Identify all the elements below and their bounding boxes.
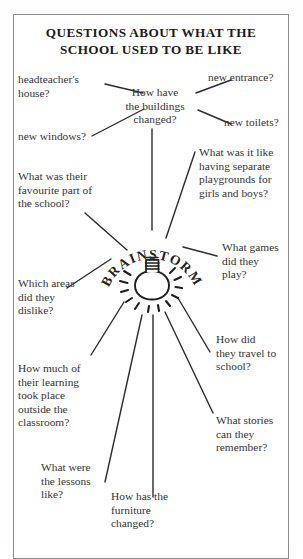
branch-label-what-stories[interactable]: What stories can they remember? [216, 414, 292, 455]
brainstorm-word: BRAINSTORM [98, 247, 206, 289]
branch-label-buildings-changed[interactable]: How have the buildings changed? [115, 86, 195, 127]
branch-label-separate-playgrounds[interactable]: What was it like having separate playgro… [199, 146, 291, 200]
branch-label-learning-outside[interactable]: How much of their learning took place ou… [18, 362, 106, 430]
branch-label-what-games[interactable]: What games did they play? [222, 241, 294, 282]
branch-label-what-lessons-like[interactable]: What were the lessons like? [41, 461, 121, 502]
brainstorm-arc-label: BRAINSTORM [96, 228, 208, 340]
branch-label-new-entrance[interactable]: new entrance? [208, 71, 288, 85]
branch-label-which-areas-dislike[interactable]: Which areas did they dislike? [18, 277, 98, 318]
branch-label-new-toilets[interactable]: new toilets? [224, 116, 294, 130]
branch-label-how-did-travel[interactable]: How did they travel to school? [216, 333, 294, 374]
branch-label-favourite-part[interactable]: What was their favourite part of the sch… [18, 170, 123, 211]
page-title-line-2: SCHOOL USED TO BE LIKE [20, 41, 282, 58]
page-title: QUESTIONS ABOUT WHAT THE SCHOOL USED TO … [20, 24, 282, 58]
page-title-line-1: QUESTIONS ABOUT WHAT THE [20, 24, 282, 41]
branch-label-headteachers-house[interactable]: headteacher's house? [18, 73, 110, 100]
branch-label-furniture-changed[interactable]: How has the furniture changed? [111, 490, 197, 531]
branch-label-new-windows[interactable]: new windows? [18, 130, 108, 144]
